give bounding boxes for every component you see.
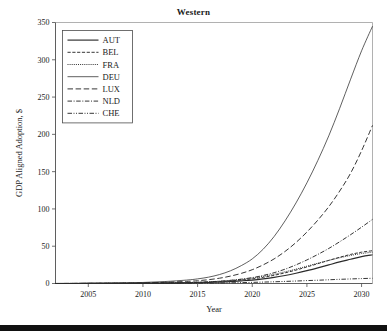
legend-label-deu: DEU bbox=[103, 72, 120, 82]
y-tick-label: 300 bbox=[38, 56, 50, 65]
x-tick-label: 2020 bbox=[244, 290, 260, 299]
chart-figure: Western 05010015020025030035020052010201… bbox=[0, 0, 387, 331]
y-tick-label: 350 bbox=[38, 18, 50, 27]
footer-band bbox=[0, 325, 387, 331]
y-tick-label: 200 bbox=[38, 130, 50, 139]
x-axis-title: Year bbox=[206, 304, 222, 314]
y-tick-label: 150 bbox=[38, 168, 50, 177]
plot-area: 0501001502002503003502005201020152020202… bbox=[0, 0, 387, 331]
x-tick-label: 2025 bbox=[299, 290, 315, 299]
y-tick-label: 50 bbox=[42, 242, 50, 251]
y-tick-label: 250 bbox=[38, 93, 50, 102]
legend-label-aut: AUT bbox=[103, 35, 121, 45]
y-axis-title: GDP Aligned Adoption, $ bbox=[14, 109, 24, 197]
legend-label-fra: FRA bbox=[103, 60, 120, 70]
legend-label-che: CHE bbox=[103, 108, 120, 118]
y-tick-label: 100 bbox=[38, 205, 50, 214]
series-line-lux bbox=[56, 125, 373, 283]
legend-label-lux: LUX bbox=[103, 84, 120, 94]
series-line-nld bbox=[56, 219, 373, 283]
y-tick-label: 0 bbox=[46, 279, 50, 288]
x-tick-label: 2005 bbox=[80, 290, 96, 299]
x-tick-label: 2015 bbox=[190, 290, 206, 299]
legend-label-bel: BEL bbox=[103, 47, 119, 57]
x-tick-label: 2010 bbox=[135, 290, 151, 299]
x-tick-label: 2030 bbox=[354, 290, 370, 299]
legend-label-nld: NLD bbox=[103, 96, 120, 106]
